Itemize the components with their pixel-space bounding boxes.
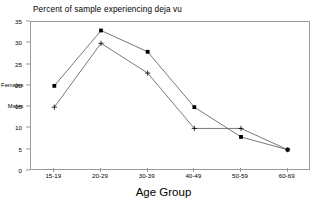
x-tick-label: 30-39 — [139, 172, 155, 179]
x-tick-label: 60-69 — [279, 172, 295, 179]
y-tick-label: 30 — [15, 39, 22, 46]
data-point-marker — [146, 50, 150, 54]
data-point-marker — [52, 84, 56, 88]
x-axis-title: Age Group — [0, 186, 327, 198]
y-tick-label: 25 — [15, 60, 22, 67]
chart-title: Percent of sample experiencing deja vu — [33, 5, 182, 14]
y-tick-label: 0 — [19, 167, 22, 174]
x-axis: 15-1920-2930-3940-4950-5960-69 — [30, 172, 310, 184]
x-tick-label: 20-29 — [92, 172, 108, 179]
x-tick-mark — [100, 168, 101, 172]
x-tick-mark — [193, 168, 194, 172]
y-tick-label: 10 — [15, 124, 22, 131]
data-point-marker — [238, 126, 243, 131]
plot-area — [30, 21, 310, 170]
data-point-marker — [192, 105, 196, 109]
x-tick-label: 40-49 — [185, 172, 201, 179]
y-tick-label: 35 — [15, 18, 22, 25]
x-tick-mark — [240, 168, 241, 172]
y-axis: 05101520253035 — [0, 21, 30, 170]
data-point-marker — [239, 135, 243, 139]
x-tick-label: 15-19 — [45, 172, 61, 179]
series-label-males: Males — [8, 103, 23, 109]
series-line-males — [54, 43, 287, 149]
x-tick-mark — [287, 168, 288, 172]
series-line-females — [54, 31, 287, 150]
x-tick-mark — [147, 168, 148, 172]
series-label-females: Females — [1, 82, 23, 88]
x-tick-label: 50-59 — [232, 172, 248, 179]
plot-svg — [31, 22, 311, 171]
data-point-marker — [99, 29, 103, 33]
deja-vu-line-chart: Percent of sample experiencing deja vu 0… — [0, 0, 327, 209]
y-tick-label: 5 — [19, 145, 22, 152]
x-tick-mark — [53, 168, 54, 172]
